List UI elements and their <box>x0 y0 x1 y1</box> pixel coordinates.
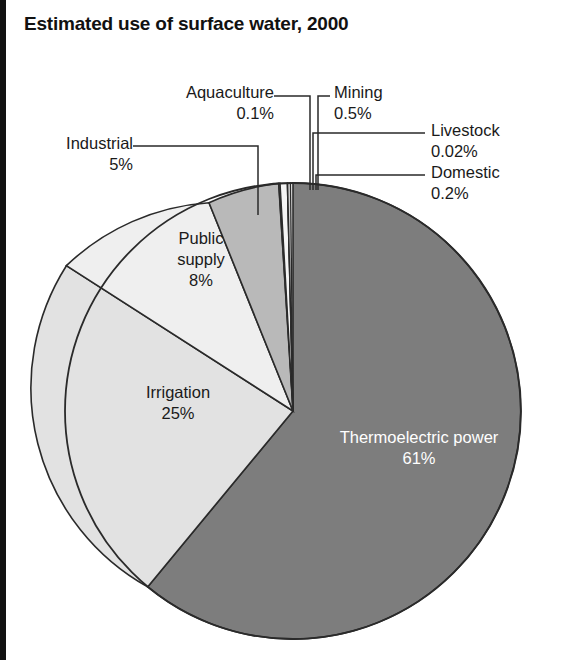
callout-domestic-name: Domestic <box>431 163 500 181</box>
callout-industrial: Industrial 5% <box>5 133 133 175</box>
pie-chart-graphic <box>0 0 561 660</box>
callout-domestic: Domestic 0.2% <box>431 162 556 204</box>
slice-label-thermoelectric-power-name: Thermoelectric power <box>340 428 499 446</box>
callout-livestock-name: Livestock <box>431 121 500 139</box>
slice-label-thermoelectric-power-value: 61% <box>402 449 435 467</box>
callout-domestic-value: 0.2% <box>431 183 556 204</box>
leader-line-mining <box>318 96 330 190</box>
callout-mining-name: Mining <box>334 83 383 101</box>
leader-line-livestock <box>313 133 425 190</box>
slice-label-public-supply: Public supply 8% <box>146 228 256 291</box>
callout-aquaculture-value: 0.1% <box>108 103 274 124</box>
slice-label-public-supply-line2: supply <box>177 250 225 268</box>
callout-industrial-name: Industrial <box>66 134 133 152</box>
callout-industrial-value: 5% <box>5 154 133 175</box>
slice-label-thermoelectric-power: Thermoelectric power 61% <box>316 427 522 469</box>
slice-label-public-supply-line1: Public <box>179 229 224 247</box>
slice-label-irrigation-name: Irrigation <box>146 383 210 401</box>
callout-aquaculture-name: Aquaculture <box>186 83 274 101</box>
figure-surface-water-pie-chart: Estimated use of surface water, 2000 <box>0 0 561 660</box>
leader-line-aquaculture <box>274 96 310 190</box>
callout-aquaculture: Aquaculture 0.1% <box>108 82 274 124</box>
callout-livestock: Livestock 0.02% <box>431 120 556 162</box>
slice-label-irrigation: Irrigation 25% <box>113 382 243 424</box>
callout-mining: Mining 0.5% <box>334 82 454 124</box>
slice-label-irrigation-value: 25% <box>161 404 194 422</box>
callout-livestock-value: 0.02% <box>431 141 556 162</box>
slice-label-public-supply-value: 8% <box>189 271 213 289</box>
